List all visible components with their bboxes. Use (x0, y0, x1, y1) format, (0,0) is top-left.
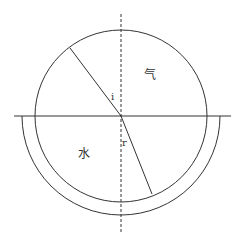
diagram-canvas: 气 水 i r (0, 0, 243, 243)
refracted-ray (121, 116, 152, 194)
water-label: 水 (78, 147, 90, 161)
air-label: 气 (144, 67, 156, 82)
refraction-angle-label: r (122, 137, 127, 148)
incidence-angle-label: i (111, 91, 114, 102)
refraction-diagram: 气 水 i r (0, 0, 243, 243)
incident-ray (70, 48, 121, 116)
